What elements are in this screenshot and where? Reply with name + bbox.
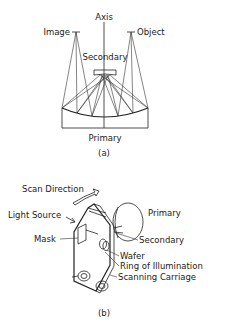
mask-label: Mask (34, 234, 56, 244)
axis-label: Axis (95, 12, 113, 22)
image-rays (62, 32, 92, 116)
wafer-leader-line (107, 250, 119, 256)
primary-mirror-surface (62, 108, 148, 117)
scanning-carriage-frame (74, 204, 110, 291)
figure-a-offner-optics: Axis Image Object Secondary Primary (a) (43, 12, 165, 158)
image-label: Image (43, 27, 70, 37)
figure-b-scanning-system: Scan Direction Light Source Mask Primary… (8, 184, 203, 318)
figure-a-caption: (a) (98, 148, 110, 158)
figure-b-caption: (b) (98, 308, 110, 318)
scan-direction-label: Scan Direction (22, 184, 84, 194)
light-source-arrow-icon (66, 217, 75, 223)
secondary-mirror (94, 70, 116, 75)
mask-plate (78, 224, 86, 244)
object-rays (118, 32, 148, 116)
primary-mirror-body (62, 108, 148, 128)
diagram-canvas: Axis Image Object Secondary Primary (a) (0, 0, 229, 331)
secondary-label: Secondary (82, 52, 127, 62)
mask-beam (86, 230, 98, 234)
scanning-carriage-label: Scanning Carriage (118, 272, 196, 282)
primary-label-b: Primary (148, 208, 181, 218)
secondary-leader-line (116, 233, 138, 240)
reflected-rays (62, 75, 148, 116)
ring-of-illumination-label: Ring of Illumination (120, 261, 203, 271)
wafer-label: Wafer (120, 251, 145, 261)
primary-label: Primary (89, 133, 122, 143)
carriage-leader-line (110, 275, 117, 277)
secondary-label-b: Secondary (139, 235, 184, 245)
light-source-label: Light Source (8, 210, 61, 220)
mask-leader-line (60, 238, 78, 239)
object-label: Object (137, 27, 165, 37)
ring-leader-line (105, 252, 119, 266)
